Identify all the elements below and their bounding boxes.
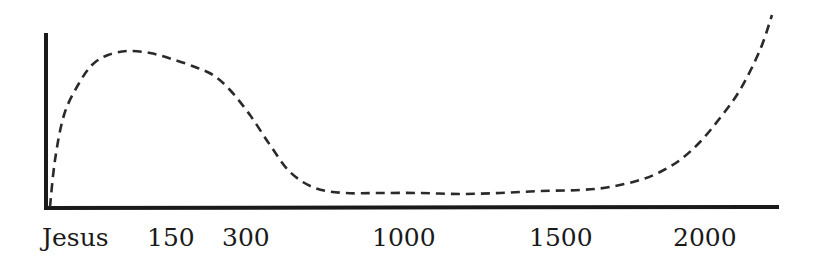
trend-curve bbox=[50, 15, 772, 207]
x-tick-label: Jesus bbox=[39, 223, 109, 252]
x-tick-label: 300 bbox=[222, 223, 270, 252]
x-tick-label: 1000 bbox=[372, 223, 436, 252]
x-tick-label: 1500 bbox=[529, 223, 593, 252]
x-tick-labels: Jesus 150 300 1000 1500 2000 bbox=[39, 223, 737, 252]
chart: Jesus 150 300 1000 1500 2000 bbox=[0, 0, 816, 262]
x-tick-label: 150 bbox=[147, 223, 195, 252]
x-axis bbox=[44, 207, 779, 208]
x-tick-label: 2000 bbox=[673, 223, 737, 252]
